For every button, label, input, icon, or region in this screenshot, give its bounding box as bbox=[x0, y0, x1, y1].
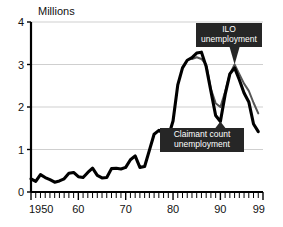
y-tick-label-3: 3 bbox=[18, 59, 24, 71]
y-axis-title: Millions bbox=[38, 5, 75, 17]
x-tick-label-80: 80 bbox=[167, 203, 179, 215]
x-tick-label-60: 60 bbox=[72, 203, 84, 215]
y-tick-label-0: 0 bbox=[18, 186, 24, 198]
x-tick-label-90: 90 bbox=[214, 203, 226, 215]
x-tick-label-70: 70 bbox=[120, 203, 132, 215]
chart-canvas: Millions 4 3 2 1 0 1950 60 70 80 90 99 I… bbox=[0, 0, 283, 227]
x-tick-label-1950: 1950 bbox=[29, 203, 53, 215]
ilo-callout-line1: ILO bbox=[222, 24, 236, 34]
claimant-callout-line1: Claimant count bbox=[174, 129, 231, 139]
y-tick-label-4: 4 bbox=[18, 16, 24, 28]
x-tick-label-99: 99 bbox=[253, 203, 265, 215]
y-tick-label-1: 1 bbox=[18, 144, 24, 156]
unemployment-line-chart: Millions 4 3 2 1 0 1950 60 70 80 90 99 I… bbox=[0, 0, 283, 227]
claimant-callout-line2: unemployment bbox=[174, 139, 230, 149]
ilo-callout-line2: unemployment bbox=[201, 34, 257, 44]
y-tick-label-2: 2 bbox=[18, 101, 24, 113]
